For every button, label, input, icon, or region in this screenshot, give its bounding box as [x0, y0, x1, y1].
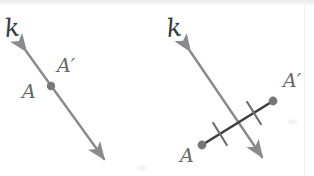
point-A-dot-right	[198, 141, 207, 150]
point-A-prime-dot-left	[47, 82, 55, 90]
line-label-k-right: k	[165, 15, 183, 41]
scan-smudge-1	[288, 120, 297, 124]
congruence-tick-left	[213, 123, 227, 145]
line-label-k-left: k	[3, 15, 21, 41]
point-label-A-right: A	[180, 146, 194, 165]
point-label-A-prime-left: A′	[57, 56, 75, 75]
diagram-canvas: k A A′ k A A′	[0, 0, 314, 176]
figure-right-group	[190, 51, 277, 157]
point-label-A-left: A	[22, 82, 36, 101]
point-label-A-prime-right: A′	[283, 71, 301, 90]
congruence-tick-right	[247, 102, 261, 124]
point-A-prime-dot-right	[269, 97, 278, 106]
scan-smudge-2	[137, 166, 147, 170]
geometry-figures-svg	[0, 0, 314, 176]
